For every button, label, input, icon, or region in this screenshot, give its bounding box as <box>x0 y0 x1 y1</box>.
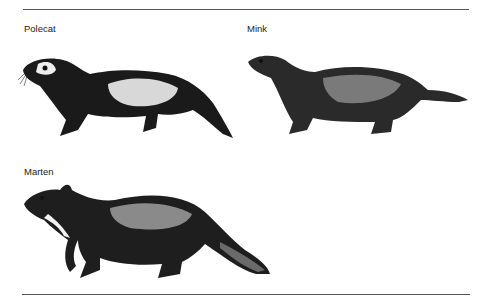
mink-illustration <box>243 48 473 143</box>
mink-label: Mink <box>247 24 267 34</box>
polecat-illustration <box>18 48 238 143</box>
marten-illustration <box>20 182 275 287</box>
marten-label: Marten <box>24 167 54 177</box>
bottom-rule <box>22 294 470 295</box>
top-rule <box>23 9 469 10</box>
polecat-label: Polecat <box>24 24 56 34</box>
